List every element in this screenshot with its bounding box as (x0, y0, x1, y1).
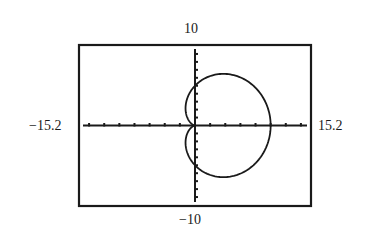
polar-plot (0, 0, 366, 237)
